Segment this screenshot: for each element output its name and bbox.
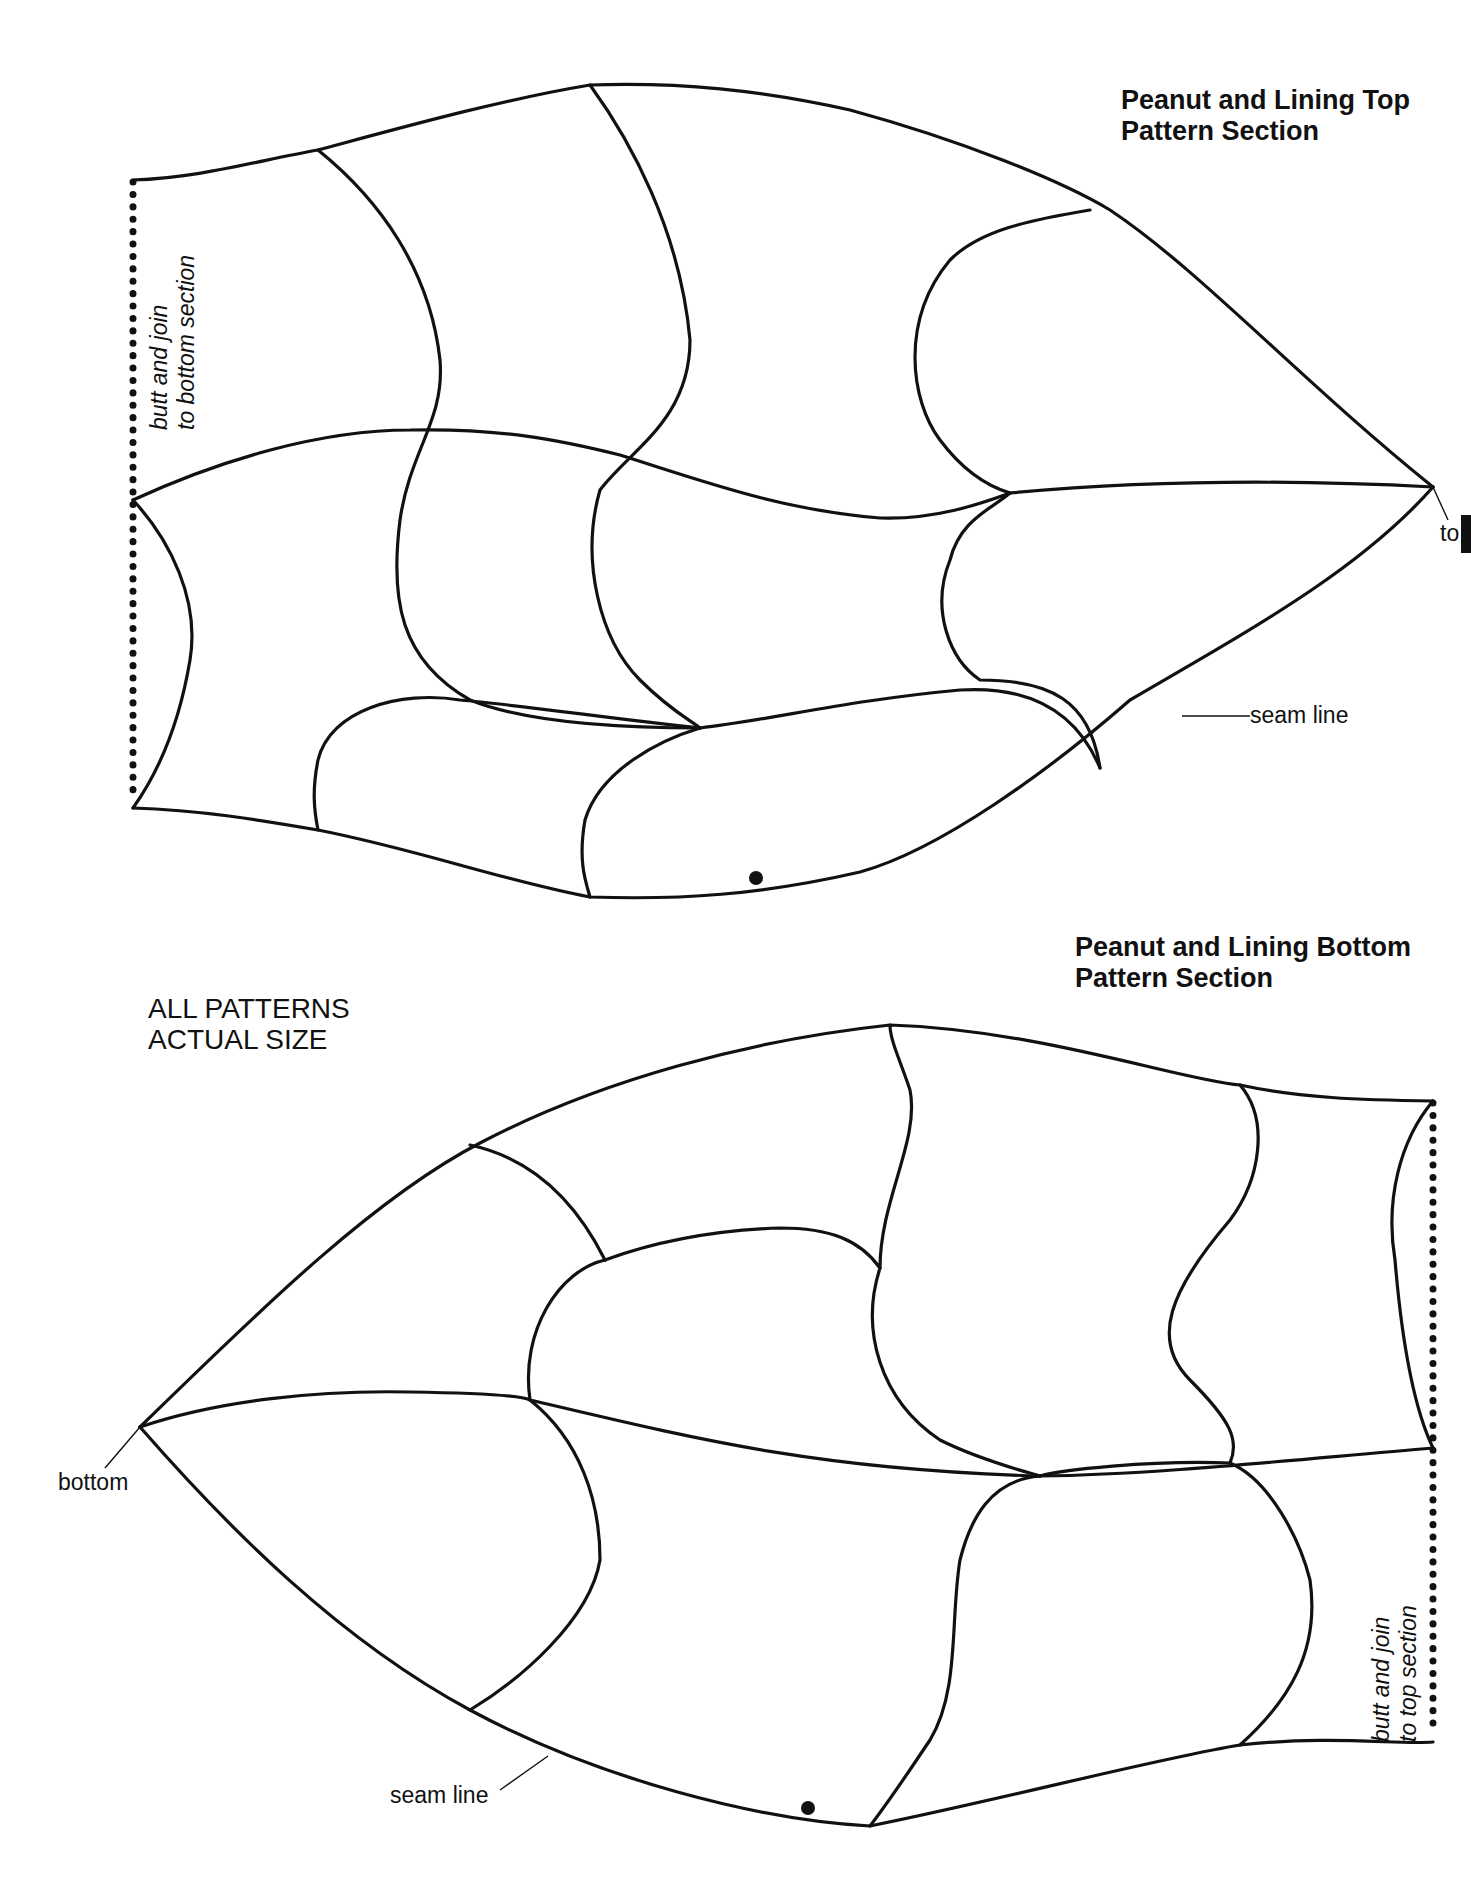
top-join-note: butt and join to bottom section	[146, 255, 200, 430]
bottom-tip-label: bottom	[58, 1469, 128, 1496]
bottom-join-note: butt and join to top section	[1368, 1605, 1422, 1742]
bottom-join-note-line-1: butt and join	[1368, 1605, 1395, 1742]
top-title-line-2: Pattern Section	[1121, 116, 1410, 147]
top-join-note-line-2: to bottom section	[173, 255, 200, 430]
top-seam-label: seam line	[1250, 702, 1348, 729]
bottom-title-line-1: Peanut and Lining Bottom	[1075, 932, 1411, 963]
bottom-section-title: Peanut and Lining Bottom Pattern Section	[1075, 932, 1411, 994]
note-line-2: ACTUAL SIZE	[148, 1024, 350, 1055]
top-title-line-1: Peanut and Lining Top	[1121, 85, 1410, 116]
bottom-seam-label: seam line	[390, 1782, 488, 1809]
top-pattern-piece	[133, 84, 1448, 897]
bottom-join-note-line-2: to top section	[1395, 1605, 1422, 1742]
pattern-page: Peanut and Lining Top Pattern Section bu…	[0, 0, 1471, 1889]
top-section-title: Peanut and Lining Top Pattern Section	[1121, 85, 1410, 147]
bottom-pattern-piece	[105, 1025, 1433, 1826]
actual-size-note: ALL PATTERNS ACTUAL SIZE	[148, 993, 350, 1055]
top-join-note-line-1: butt and join	[146, 255, 173, 430]
page-edge-mark	[1461, 515, 1471, 553]
note-line-1: ALL PATTERNS	[148, 993, 350, 1024]
bottom-title-line-2: Pattern Section	[1075, 963, 1411, 994]
top-tip-label: to	[1440, 520, 1459, 547]
